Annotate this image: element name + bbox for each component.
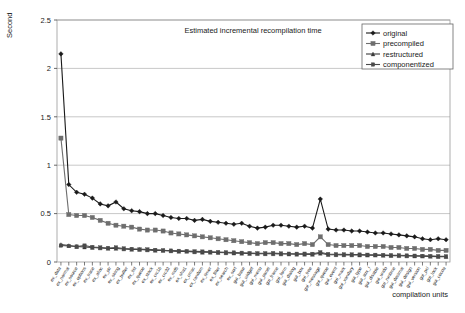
data-point-marker [420,247,424,251]
data-point-marker [271,251,274,254]
data-point-marker [82,213,86,217]
data-point-marker [358,253,361,256]
chart-legend: originalprecompiledrestructuredcomponent… [362,24,453,69]
data-point-marker [389,254,392,257]
data-point-marker [413,246,417,250]
data-point-marker [444,255,447,258]
data-point-marker [279,252,282,255]
data-point-marker [83,244,86,247]
data-point-marker [154,248,157,251]
data-point-marker [145,228,149,232]
data-point-marker [397,245,401,249]
data-point-marker [271,241,275,245]
data-point-marker [169,231,173,235]
data-point-marker [185,249,188,252]
y-axis-label: Second [5,13,14,38]
data-point-marker [75,245,78,248]
data-point-marker [436,248,440,252]
data-point-marker [437,254,440,257]
data-point-marker [209,250,212,253]
data-point-marker [389,245,393,249]
chart-title: Estimated incremental recompilation time [184,26,321,35]
data-point-marker [366,253,369,256]
data-point-marker [247,241,251,245]
data-point-marker [342,253,345,256]
data-point-marker [161,249,164,252]
data-point-marker [287,252,290,255]
data-point-marker [216,250,219,253]
legend-label: original [383,29,408,38]
data-point-marker [302,242,306,246]
data-point-marker [240,251,243,254]
data-point-marker [161,229,165,233]
y-tick-label: 0.5 [41,209,51,218]
data-point-marker [138,248,141,251]
data-point-marker [287,242,291,246]
data-point-marker [318,235,322,239]
data-point-marker [365,244,369,248]
data-point-marker [371,63,374,66]
data-point-marker [75,213,79,217]
data-point-marker [303,252,306,255]
data-point-marker [91,245,94,248]
data-point-marker [421,254,424,257]
data-point-marker [334,253,337,256]
recompilation-time-line-chart: 00.511.522.5 Second Estimated incrementa… [0,0,465,313]
data-point-marker [224,251,227,254]
data-point-marker [224,238,228,242]
data-point-marker [358,243,362,247]
data-point-marker [310,242,314,246]
data-point-marker [216,237,220,241]
y-tick-label: 2 [47,64,51,73]
data-point-marker [326,252,329,255]
data-point-marker [208,236,212,240]
data-point-marker [405,246,409,250]
data-point-marker [311,252,314,255]
data-point-marker [192,234,196,238]
data-point-marker [99,246,102,249]
data-point-marker [240,240,244,244]
data-point-marker [67,244,70,247]
data-point-marker [295,242,299,246]
data-point-marker [326,242,330,246]
x-axis-title: compilation units [392,290,448,299]
data-point-marker [130,247,133,250]
legend-label: restructured [383,50,423,59]
data-point-marker [114,223,118,227]
data-point-marker [59,244,62,247]
data-point-marker [295,252,298,255]
data-point-marker [264,252,267,255]
data-point-marker [67,212,71,216]
data-point-marker [279,242,283,246]
data-point-marker [444,248,448,252]
data-point-marker [350,253,353,256]
data-point-marker [256,252,259,255]
data-point-marker [428,247,432,251]
data-point-marker [405,254,408,257]
legend-label: componentized [383,60,434,69]
data-point-marker [90,215,94,219]
data-point-marker [429,254,432,257]
data-point-marker [185,233,189,237]
data-point-marker [373,244,377,248]
data-point-marker [248,251,251,254]
data-point-marker [114,246,117,249]
legend-label: precompiled [383,39,424,48]
data-point-marker [201,250,204,253]
data-point-marker [193,250,196,253]
data-point-marker [177,232,181,236]
y-tick-label: 1.5 [41,113,51,122]
data-point-marker [232,251,235,254]
data-point-marker [59,136,63,140]
data-point-marker [263,241,267,245]
data-point-marker [232,239,236,243]
data-point-marker [334,243,338,247]
data-point-marker [200,235,204,239]
data-point-marker [98,218,102,222]
data-point-marker [255,242,259,246]
data-point-marker [371,41,375,45]
chart-container: 00.511.522.5 Second Estimated incrementa… [0,0,465,313]
data-point-marker [342,243,346,247]
data-point-marker [350,243,354,247]
data-point-marker [381,244,385,248]
